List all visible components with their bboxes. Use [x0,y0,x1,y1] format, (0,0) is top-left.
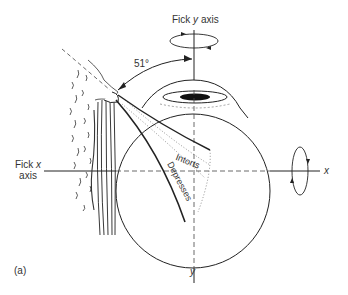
y-axis-end-label: y [190,266,195,277]
angle-arrowhead-right-icon [184,55,192,62]
y-rotation-arrowhead-icon [181,32,186,36]
angle-arrowhead-left-icon [118,82,126,90]
angle-label: 51° [134,58,149,69]
panel-label: (a) [14,265,26,276]
fick-y-axis-label: Fick y axis [172,14,219,25]
x-axis-end-label: x [324,165,329,176]
x-rotation-arrowhead2-icon [290,178,294,183]
limbus-dashed [160,104,230,108]
eyeball-outline [116,114,270,268]
eye-muscle-diagram [0,0,348,295]
superior-oblique-muscle-belly [97,100,115,235]
muscle-plane-line [62,49,110,90]
fick-x-axis-label: Fick xaxis [12,159,44,181]
x-rotation-arrowhead-icon [306,159,310,164]
angle-arc [118,59,192,90]
pupil [180,94,210,101]
